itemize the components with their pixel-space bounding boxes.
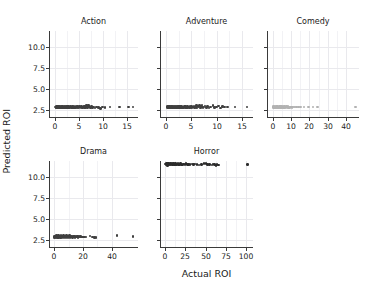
y-tick-mark: [264, 68, 267, 69]
x-tick-mark: [273, 118, 274, 121]
gridline-vertical: [346, 31, 347, 118]
facet-title-adventure: Adventure: [160, 17, 253, 26]
x-tick-mark: [246, 248, 247, 251]
gridline-vertical-minor: [216, 161, 217, 248]
y-tick-label: 5.0: [19, 215, 45, 224]
y-tick-label: 7.5: [19, 194, 45, 203]
axis-spine-bottom: [49, 247, 138, 248]
data-point: [104, 106, 107, 109]
x-tick-mark: [79, 118, 80, 121]
facet-panel-horror: Horror0255075100: [160, 161, 253, 248]
x-tick-label: 50: [201, 252, 211, 261]
gridline-vertical-minor: [300, 31, 301, 118]
x-tick-mark: [328, 118, 329, 121]
y-tick-mark: [46, 219, 49, 220]
x-tick-label: 40: [341, 122, 351, 131]
gridline-horizontal: [49, 68, 138, 69]
y-tick-mark: [46, 89, 49, 90]
gridline-vertical: [185, 161, 186, 248]
x-tick-mark: [127, 118, 128, 121]
x-tick-mark: [112, 248, 113, 251]
y-tick-mark: [46, 198, 49, 199]
data-point: [217, 164, 220, 167]
gridline-vertical: [226, 161, 227, 248]
x-tick-label: 40: [107, 252, 117, 261]
x-tick-mark: [103, 118, 104, 121]
x-tick-mark: [206, 248, 207, 251]
data-point: [132, 235, 135, 238]
x-tick-mark: [217, 118, 218, 121]
axis-spine-left: [160, 161, 161, 248]
x-tick-mark: [291, 118, 292, 121]
plot-area: [49, 161, 138, 248]
x-tick-label: 30: [323, 122, 333, 131]
gridline-vertical: [103, 31, 104, 118]
y-tick-mark: [46, 177, 49, 178]
axis-spine-left: [49, 161, 50, 248]
data-point: [127, 106, 130, 109]
plot-area: [267, 31, 359, 118]
data-point: [303, 106, 306, 109]
facet-title-action: Action: [49, 17, 138, 26]
gridline-horizontal: [160, 177, 253, 178]
x-tick-mark: [166, 118, 167, 121]
y-tick-mark: [157, 68, 160, 69]
x-tick-mark: [191, 118, 192, 121]
x-tick-label: 0: [271, 122, 276, 131]
data-point: [246, 163, 249, 166]
gridline-vertical-minor: [97, 161, 98, 248]
facet-panel-comedy: Comedy010203040: [267, 31, 359, 118]
facet-title-drama: Drama: [49, 147, 138, 156]
x-tick-mark: [242, 118, 243, 121]
y-tick-mark: [264, 110, 267, 111]
gridline-vertical-minor: [319, 31, 320, 118]
y-tick-mark: [157, 198, 160, 199]
data-point: [118, 106, 121, 109]
y-tick-label: 10.0: [19, 43, 45, 52]
x-tick-label: 5: [77, 122, 82, 131]
gridline-horizontal: [49, 198, 138, 199]
plot-area: [160, 161, 253, 248]
figure-scatter-facet-grid: Predicted ROI Actual ROI Action0510152.5…: [0, 0, 367, 290]
gridline-vertical-minor: [229, 31, 230, 118]
x-tick-label: 75: [221, 252, 231, 261]
y-tick-mark: [46, 47, 49, 48]
gridline-horizontal: [160, 47, 253, 48]
plot-area: [49, 31, 138, 118]
data-point: [354, 106, 357, 109]
gridline-horizontal: [49, 89, 138, 90]
x-tick-label: 0: [53, 122, 58, 131]
data-point: [234, 106, 237, 109]
y-tick-label: 2.5: [19, 106, 45, 115]
facet-panel-action: Action0510152.55.07.510.0: [49, 31, 138, 118]
gridline-vertical-minor: [236, 161, 237, 248]
x-tick-label: 10: [286, 122, 296, 131]
gridline-vertical: [127, 31, 128, 118]
gridline-horizontal: [160, 89, 253, 90]
gridline-vertical: [242, 31, 243, 118]
y-tick-mark: [46, 68, 49, 69]
data-point: [109, 106, 112, 109]
gridline-horizontal: [267, 89, 359, 90]
gridline-vertical: [291, 31, 292, 118]
x-tick-mark: [54, 248, 55, 251]
y-tick-mark: [157, 240, 160, 241]
gridline-horizontal: [49, 219, 138, 220]
y-tick-label: 7.5: [19, 64, 45, 73]
gridline-horizontal: [160, 219, 253, 220]
x-tick-label: 0: [164, 122, 169, 131]
y-tick-label: 2.5: [19, 236, 45, 245]
data-point: [132, 106, 135, 109]
x-tick-label: 25: [180, 252, 190, 261]
gridline-vertical: [206, 161, 207, 248]
data-point: [85, 236, 88, 239]
gridline-horizontal: [49, 110, 138, 111]
y-tick-mark: [264, 47, 267, 48]
gridline-horizontal: [49, 240, 138, 241]
gridline-vertical: [309, 31, 310, 118]
data-point: [307, 106, 310, 109]
x-tick-label: 15: [122, 122, 132, 131]
gridline-vertical-minor: [337, 31, 338, 118]
gridline-vertical-minor: [175, 161, 176, 248]
data-point: [246, 106, 249, 109]
